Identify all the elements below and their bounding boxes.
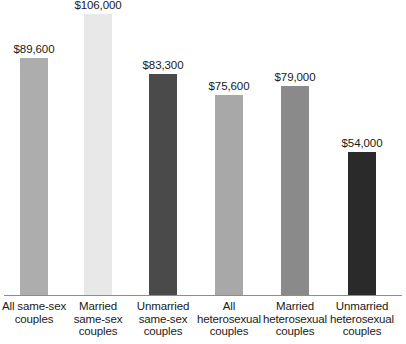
plot-area: $89,600 $106,000 $83,300 $75,600 $79,000… bbox=[0, 0, 406, 296]
category-label-line: couples bbox=[325, 325, 399, 338]
bar-value-label: $83,300 bbox=[143, 59, 184, 71]
category-label: Unmarried heterosexual couples bbox=[325, 300, 399, 338]
category-label-line: same-sex bbox=[61, 313, 135, 326]
bar-value-label: $54,000 bbox=[342, 137, 383, 149]
category-label-line: heterosexual bbox=[192, 313, 266, 326]
bar-rect[interactable] bbox=[281, 86, 309, 295]
bar-rect[interactable] bbox=[215, 95, 243, 295]
category-label-line: Unmarried bbox=[325, 300, 399, 313]
category-label: Married same-sex couples bbox=[61, 300, 135, 338]
bar-value-label: $106,000 bbox=[74, 0, 121, 11]
category-label-line: couples bbox=[192, 325, 266, 338]
bar-value-label: $79,000 bbox=[275, 71, 316, 83]
bar-chart: $89,600 $106,000 $83,300 $75,600 $79,000… bbox=[0, 0, 406, 344]
category-label-line: Married bbox=[258, 300, 332, 313]
category-label-line: All bbox=[192, 300, 266, 313]
bar-rect[interactable] bbox=[20, 58, 48, 295]
category-label-line: couples bbox=[61, 325, 135, 338]
category-label-line: same-sex bbox=[126, 313, 200, 326]
bar-rect[interactable] bbox=[348, 152, 376, 295]
category-label: All heterosexual couples bbox=[192, 300, 266, 338]
category-label-line: heterosexual bbox=[258, 313, 332, 326]
bar-value-label: $75,600 bbox=[209, 80, 250, 92]
category-label: Married heterosexual couples bbox=[258, 300, 332, 338]
category-label-line: couples bbox=[258, 325, 332, 338]
category-label-row: All same-sex couples Married same-sex co… bbox=[0, 300, 406, 344]
category-label-line: Married bbox=[61, 300, 135, 313]
category-label-line: Unmarried bbox=[126, 300, 200, 313]
bar-value-label: $89,600 bbox=[14, 43, 55, 55]
category-label: Unmarried same-sex couples bbox=[126, 300, 200, 338]
category-label-line: heterosexual bbox=[325, 313, 399, 326]
category-label-line: couples bbox=[126, 325, 200, 338]
bar-rect[interactable] bbox=[149, 74, 177, 295]
x-axis-baseline bbox=[4, 295, 402, 296]
bar-rect[interactable] bbox=[84, 14, 112, 295]
